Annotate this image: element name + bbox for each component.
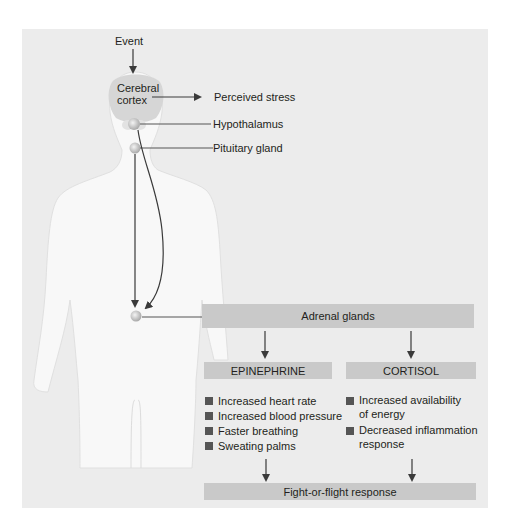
- effect-item: Increased availabilityof energy: [346, 394, 478, 421]
- pituitary-gland: [130, 143, 141, 154]
- bullet-square-icon: [205, 412, 213, 420]
- cortisol-box: CORTISOL: [346, 362, 476, 379]
- fight-or-flight-box: Fight-or-flight response: [204, 483, 476, 500]
- body-silhouette: [34, 72, 228, 468]
- cerebral-cortex-line1: Cerebral: [117, 82, 159, 94]
- hypothalamus-label: Hypothalamus: [213, 118, 283, 131]
- epinephrine-box: EPINEPHRINE: [204, 362, 332, 379]
- perceived-stress-label: Perceived stress: [214, 91, 295, 104]
- bullet-square-icon: [205, 427, 213, 435]
- effect-item: Faster breathing: [205, 424, 342, 439]
- adrenal-gland: [131, 311, 142, 322]
- event-label: Event: [115, 35, 143, 48]
- bullet-square-icon: [346, 397, 354, 405]
- hypothalamus-gland: [128, 118, 140, 130]
- epinephrine-effects-list: Increased heart rate Increased blood pre…: [205, 394, 342, 454]
- effect-item: Sweating palms: [205, 439, 342, 454]
- cortisol-effects-list: Increased availabilityof energy Decrease…: [346, 394, 478, 451]
- bullet-square-icon: [346, 427, 354, 435]
- bullet-square-icon: [205, 397, 213, 405]
- adrenal-glands-box: Adrenal glands: [202, 304, 474, 328]
- cerebral-cortex-line2: cortex: [117, 94, 159, 106]
- cerebral-cortex-label: Cerebral cortex: [117, 82, 159, 106]
- pituitary-gland-label: Pituitary gland: [213, 142, 283, 155]
- effect-item: Decreased inflammationresponse: [346, 424, 478, 451]
- bullet-square-icon: [205, 442, 213, 450]
- effect-item: Increased blood pressure: [205, 409, 342, 424]
- effect-item: Increased heart rate: [205, 394, 342, 409]
